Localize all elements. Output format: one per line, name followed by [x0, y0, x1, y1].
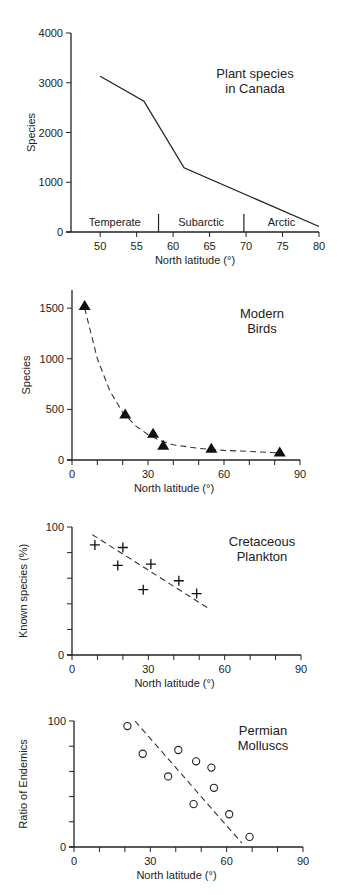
y-tick-label: 0 — [57, 226, 63, 238]
y-tick-label: 1000 — [40, 353, 64, 365]
triangle-marker — [79, 300, 91, 310]
chart-4: 01000306090North latitude (°)Ratio of En… — [17, 715, 309, 881]
y-tick-label: 500 — [46, 403, 64, 415]
x-tick-label: 30 — [142, 468, 154, 480]
trend-line — [92, 535, 209, 609]
y-tick-label: 3000 — [39, 77, 63, 89]
x-tick-label: 60 — [219, 663, 231, 675]
x-tick-label: 0 — [69, 468, 75, 480]
y-tick-label: 100 — [48, 715, 66, 727]
plus-marker — [192, 589, 202, 599]
plus-marker — [118, 542, 128, 552]
x-tick-label: 0 — [69, 663, 75, 675]
zone-label: Arctic — [268, 216, 296, 228]
y-tick-label: 0 — [60, 841, 66, 853]
circle-marker — [124, 722, 131, 729]
x-tick-label: 80 — [313, 240, 325, 252]
y-tick-label: 1500 — [40, 302, 64, 314]
x-tick-label: 60 — [218, 468, 230, 480]
x-tick-label: 0 — [71, 855, 77, 867]
chart-title: Plankton — [237, 549, 288, 564]
circle-marker — [246, 833, 253, 840]
x-tick-label: 70 — [240, 240, 252, 252]
data-line — [100, 76, 319, 226]
x-tick-label: 50 — [94, 240, 106, 252]
zone-label: Subarctic — [178, 216, 224, 228]
chart-1: 0100020003000400050556065707580North lat… — [25, 27, 325, 266]
x-tick-label: 60 — [221, 855, 233, 867]
y-tick-label: 1000 — [39, 176, 63, 188]
x-axis-label: North latitude (°) — [136, 869, 216, 881]
chart-title: Birds — [247, 321, 277, 336]
chart-title: in Canada — [225, 81, 285, 96]
trend-line — [135, 721, 242, 843]
x-tick-label: 30 — [144, 855, 156, 867]
y-axis-label: Species — [20, 355, 32, 395]
circle-marker — [193, 758, 200, 765]
plus-marker — [90, 540, 100, 550]
triangle-marker — [147, 428, 159, 438]
triangle-marker — [157, 440, 169, 450]
y-axis-label: Known species (%) — [17, 544, 29, 638]
chart-title: Modern — [240, 306, 284, 321]
y-tick-label: 100 — [46, 521, 64, 533]
figure-panel: 0100020003000400050556065707580North lat… — [0, 0, 339, 895]
circle-marker — [208, 764, 215, 771]
circle-marker — [226, 811, 233, 818]
y-tick-label: 4000 — [39, 27, 63, 39]
x-axis-label: North latitude (°) — [134, 482, 214, 494]
circle-marker — [210, 784, 217, 791]
x-axis-label: North latitude (°) — [134, 677, 214, 689]
plus-marker — [174, 576, 184, 586]
chart-title: Cretaceous — [229, 534, 296, 549]
x-tick-label: 65 — [203, 240, 215, 252]
x-tick-label: 90 — [297, 855, 309, 867]
circle-marker — [190, 801, 197, 808]
triangle-marker — [119, 408, 131, 418]
circle-marker — [165, 773, 172, 780]
x-tick-label: 55 — [131, 240, 143, 252]
triangle-marker — [205, 443, 217, 453]
chart-title: Plant species — [216, 66, 294, 81]
chart-title: Molluscs — [238, 738, 289, 753]
chart-3: 01000306090North latitude (°)Known speci… — [17, 521, 307, 689]
plus-marker — [138, 585, 148, 595]
circle-marker — [139, 750, 146, 757]
y-tick-label: 0 — [58, 454, 64, 466]
x-tick-label: 30 — [142, 663, 154, 675]
plus-marker — [146, 559, 156, 569]
x-tick-label: 90 — [295, 663, 307, 675]
plus-marker — [113, 560, 123, 570]
chart-title: Permian — [239, 723, 287, 738]
chart-2: 0500100015000306090North latitude (°)Spe… — [20, 290, 306, 494]
x-tick-label: 60 — [167, 240, 179, 252]
y-tick-label: 0 — [58, 649, 64, 661]
y-axis-label: Species — [25, 112, 37, 152]
zone-label: Temperate — [89, 216, 141, 228]
circle-marker — [175, 746, 182, 753]
y-axis-label: Ratio of Endemics — [17, 739, 29, 829]
x-tick-label: 75 — [276, 240, 288, 252]
triangle-marker — [274, 446, 286, 456]
x-tick-label: 90 — [294, 468, 306, 480]
y-tick-label: 2000 — [39, 127, 63, 139]
x-axis-label: North latitude (°) — [155, 254, 235, 266]
